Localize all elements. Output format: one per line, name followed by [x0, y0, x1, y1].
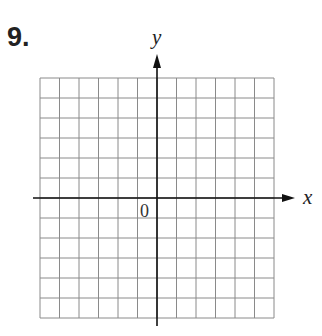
origin-label: 0 — [140, 201, 149, 221]
coordinate-plane: x y 0 — [0, 0, 322, 336]
y-axis-arrow-icon — [153, 54, 161, 68]
x-axis-arrow-icon — [282, 194, 295, 202]
y-axis-label: y — [150, 25, 162, 49]
x-axis-label: x — [302, 185, 313, 209]
